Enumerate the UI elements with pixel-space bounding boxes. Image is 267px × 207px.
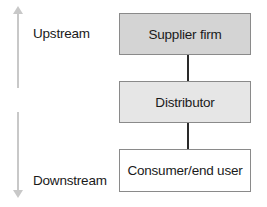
distributor-box: Distributor — [119, 81, 251, 123]
connector-supplier-distributor — [187, 55, 189, 81]
distributor-label: Distributor — [155, 95, 214, 110]
consumer-end-user-box: Consumer/end user — [119, 149, 251, 192]
connector-distributor-consumer — [187, 123, 189, 149]
downstream-arrow-line — [17, 112, 19, 192]
supplier-firm-box: Supplier firm — [119, 13, 251, 55]
supplier-firm-label: Supplier firm — [148, 27, 221, 42]
upstream-label: Upstream — [33, 26, 90, 41]
consumer-end-user-label: Consumer/end user — [127, 163, 242, 178]
upstream-arrow-line — [17, 12, 19, 88]
down-arrow-head-icon — [13, 190, 23, 198]
downstream-label: Downstream — [33, 173, 107, 188]
